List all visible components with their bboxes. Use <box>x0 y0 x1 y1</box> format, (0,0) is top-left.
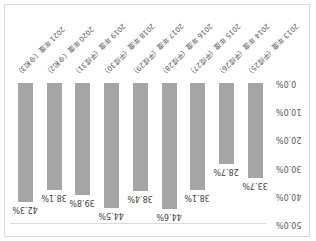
bar <box>47 83 62 190</box>
bar <box>18 83 33 202</box>
y-tick-label: 10.0% <box>276 107 312 116</box>
bar <box>133 83 148 191</box>
bar <box>75 83 90 195</box>
bar <box>104 83 119 208</box>
y-tick-label: 0.0% <box>276 79 312 88</box>
bar-value-label: 33.7% <box>235 181 275 190</box>
bar-value-label: 38.1% <box>177 193 217 202</box>
bar <box>162 83 177 209</box>
y-tick-label: 50.0% <box>276 220 312 229</box>
y-tick-label: 20.0% <box>276 135 312 144</box>
bar-value-label: 38.1% <box>34 193 74 202</box>
bar-value-label: 38.4% <box>120 194 160 203</box>
bar-value-label: 44.6% <box>149 212 189 221</box>
y-tick-label: 40.0% <box>276 192 312 201</box>
y-tick-label: 30.0% <box>276 164 312 173</box>
bar-value-label: 44.5% <box>91 212 131 221</box>
bar <box>190 83 205 190</box>
baseline <box>10 223 266 224</box>
bar <box>219 83 234 164</box>
bar <box>248 83 263 178</box>
bar-value-label: 28.7% <box>206 167 246 176</box>
chart-canvas: 0.0%10.0%20.0%30.0%40.0%50.0% 33.7%28.7%… <box>0 0 316 241</box>
bar-value-label: 42.3% <box>5 205 45 214</box>
